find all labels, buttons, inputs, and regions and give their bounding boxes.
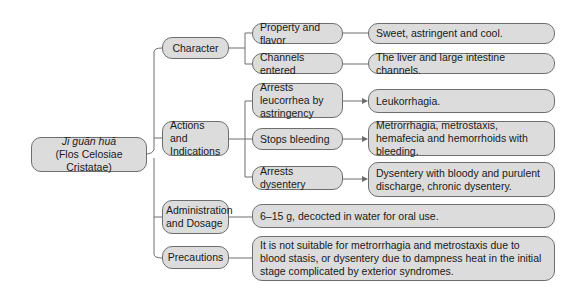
item-stops-bleeding: Stops bleeding (252, 128, 343, 150)
detail-leukorrhagia: Leukorrhagia. (368, 89, 555, 113)
item-label: Property and flavor (260, 21, 335, 47)
category-label: Actions and Indications (170, 119, 221, 158)
item-arrests-dysentery: Arrests dysentery (252, 166, 343, 190)
root-node: Jī guān huā (Flos Celosiae Cristatae) (31, 137, 147, 172)
category-precautions: Precautions (162, 246, 229, 269)
item-arrests-leucorrhea: Arrests leucorrhea by astringency (252, 83, 343, 118)
item-label: Arrests dysentery (260, 165, 335, 191)
category-administration: Administration and Dosage (162, 200, 229, 234)
detail-text: Sweet, astringent and cool. (376, 27, 503, 40)
detail-property-flavor: Sweet, astringent and cool. (368, 23, 555, 44)
detail-text: It is not suitable for metrorrhagia and … (260, 239, 547, 278)
detail-text: Dysentery with bloody and purulent disch… (376, 167, 547, 193)
item-property-flavor: Property and flavor (252, 23, 343, 44)
detail-precautions: It is not suitable for metrorrhagia and … (252, 236, 555, 281)
category-label: Precautions (168, 251, 223, 264)
detail-text: 6–15 g, decocted in water for oral use. (260, 210, 439, 223)
category-label: Character (172, 42, 218, 55)
detail-channels-entered: The liver and large intestine channels. (368, 53, 555, 74)
root-title: Jī guān huā (62, 135, 116, 148)
item-label: Channels entered (260, 51, 335, 77)
detail-dysentery: Dysentery with bloody and purulent disch… (368, 162, 555, 197)
category-character: Character (162, 37, 229, 59)
category-actions: Actions and Indications (162, 121, 229, 156)
detail-text: The liver and large intestine channels. (376, 51, 547, 77)
category-label: Administration and Dosage (166, 204, 233, 230)
detail-bleeding: Metrorrhagia, metrostaxis, hemafecia and… (368, 121, 555, 156)
detail-dosage: 6–15 g, decocted in water for oral use. (252, 204, 555, 228)
item-channels-entered: Channels entered (252, 53, 343, 74)
detail-text: Metrorrhagia, metrostaxis, hemafecia and… (376, 119, 547, 158)
item-label: Arrests leucorrhea by astringency (260, 81, 335, 120)
item-label: Stops bleeding (260, 133, 329, 146)
root-subtitle: (Flos Celosiae Cristatae) (39, 148, 139, 174)
detail-text: Leukorrhagia. (376, 95, 440, 108)
